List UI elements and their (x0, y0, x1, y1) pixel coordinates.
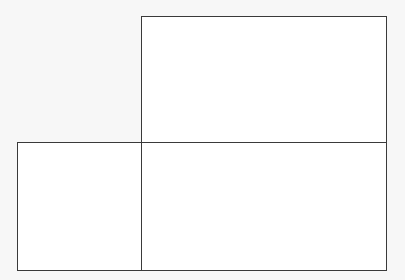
puzzle-grid (141, 142, 387, 271)
column-clues (141, 16, 387, 144)
row-clues (17, 142, 143, 271)
